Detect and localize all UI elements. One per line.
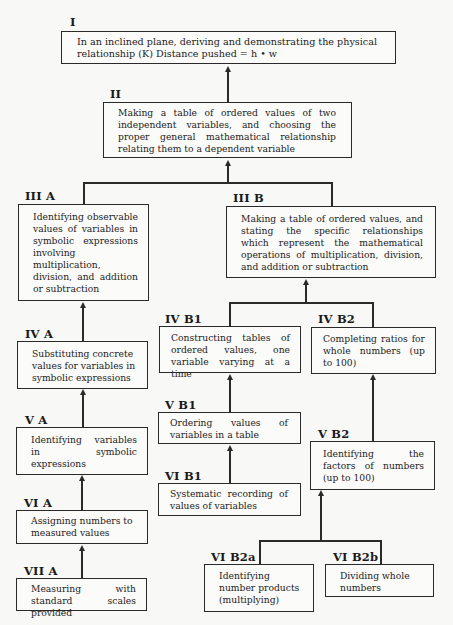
connector-VIB2a-stub bbox=[259, 540, 261, 564]
node-I-box: In an inclined plane, deriving and demon… bbox=[61, 31, 396, 64]
node-IVA-text: Substituting concrete values for variabl… bbox=[32, 348, 135, 383]
level-label-VIB2a: VI B2a bbox=[211, 551, 256, 563]
arrow-up-icon bbox=[225, 66, 231, 72]
node-VIIA-text: Measuring with standard scales provided bbox=[31, 583, 136, 618]
arrow-up-icon bbox=[227, 374, 233, 380]
arrow-up-icon bbox=[303, 279, 309, 285]
node-VA-box: Identifying variables in symbolic expres… bbox=[16, 427, 148, 475]
connector-II-I bbox=[227, 70, 229, 102]
connector-IVB-branch bbox=[229, 302, 373, 304]
node-VB1-box: Ordering values of variables in a table bbox=[158, 412, 301, 444]
connector-IIIB-stub bbox=[331, 182, 333, 206]
node-VIB1-text: Systematic recording of values of variab… bbox=[170, 488, 288, 511]
node-IIIB-text: Making a table of ordered values, and st… bbox=[241, 213, 423, 272]
connector-IVB1-stub bbox=[229, 302, 231, 326]
node-VIB2a-box: Identifying number products (multiplying… bbox=[204, 564, 314, 612]
node-VIA-text: Assigning numbers to measured values bbox=[31, 515, 133, 538]
node-IVA-box: Substituting concrete values for variabl… bbox=[17, 341, 148, 389]
node-VB2-box: Identifying the factors of numbers (up t… bbox=[310, 441, 435, 490]
node-IVB2-box: Completing ratios for whole numbers (up … bbox=[311, 327, 436, 374]
connector-IVB-IIIB bbox=[305, 283, 307, 303]
node-IVB1-text: Constructing tables of ordered values, o… bbox=[171, 332, 290, 379]
level-label-IVB1: IV B1 bbox=[165, 313, 202, 325]
node-VB2-text: Identifying the factors of numbers (up t… bbox=[323, 448, 424, 483]
arrow-up-icon bbox=[80, 389, 86, 395]
level-label-VIB2b: VI B2b bbox=[333, 551, 378, 563]
node-I-text: In an inclined plane, deriving and demon… bbox=[77, 36, 377, 59]
node-VIA-box: Assigning numbers to measured values bbox=[16, 510, 148, 544]
node-IIIA-box: Identifying observable values of variabl… bbox=[18, 204, 149, 301]
node-IVB2-text: Completing ratios for whole numbers (up … bbox=[323, 333, 425, 368]
node-VIB1-box: Systematic recording of values of variab… bbox=[158, 483, 301, 516]
arrow-up-icon bbox=[318, 490, 324, 496]
connector-VA-IVA bbox=[82, 393, 84, 427]
node-II-text: Making a table of ordered values of two … bbox=[118, 107, 336, 154]
level-label-I: I bbox=[70, 16, 76, 28]
level-label-VB2: V B2 bbox=[318, 428, 349, 440]
level-label-VA: V A bbox=[25, 414, 47, 426]
connector-III-branch bbox=[83, 182, 333, 184]
node-IVB1-box: Constructing tables of ordered values, o… bbox=[159, 326, 301, 373]
node-IIIA-text: Identifying observable values of variabl… bbox=[33, 211, 138, 294]
connector-IIIA-stub bbox=[83, 182, 85, 204]
connector-IVB2-stub bbox=[372, 302, 374, 327]
connector-VB1-IVB1 bbox=[229, 378, 231, 412]
arrow-up-icon bbox=[79, 545, 85, 551]
level-label-VIB1: VI B1 bbox=[165, 470, 202, 482]
connector-VIA-VA bbox=[81, 479, 83, 510]
node-VIIA-box: Measuring with standard scales provided bbox=[16, 578, 147, 611]
node-VA-text: Identifying variables in symbolic expres… bbox=[31, 434, 137, 469]
arrow-up-icon bbox=[370, 374, 376, 380]
node-VIB2b-text: Dividing whole numbers bbox=[340, 570, 410, 593]
arrow-up-icon bbox=[79, 475, 85, 481]
level-label-VIA: VI A bbox=[24, 497, 52, 509]
node-VB1-text: Ordering values of variables in a table bbox=[170, 417, 288, 440]
node-VIB2a-text: Identifying number products (multiplying… bbox=[219, 570, 299, 605]
connector-VB2-IVB2 bbox=[372, 378, 374, 441]
level-label-IVB2: IV B2 bbox=[318, 313, 355, 325]
level-label-VIIA: VII A bbox=[24, 565, 58, 577]
level-label-II: II bbox=[110, 88, 121, 100]
connector-III-II bbox=[227, 164, 229, 183]
level-label-IIIA: III A bbox=[25, 190, 55, 202]
level-label-VB1: V B1 bbox=[165, 399, 196, 411]
level-label-IIIB: III B bbox=[233, 192, 264, 204]
node-II-box: Making a table of ordered values of two … bbox=[103, 102, 352, 158]
arrow-up-icon bbox=[80, 302, 86, 308]
level-label-IVA: IV A bbox=[25, 328, 53, 340]
connector-IVA-IIIA bbox=[82, 306, 84, 341]
connector-VIB1-VB1 bbox=[229, 449, 231, 483]
node-VIB2b-box: Dividing whole numbers bbox=[325, 564, 434, 597]
connector-VIB2-VB2 bbox=[320, 494, 322, 541]
node-IIIB-box: Making a table of ordered values, and st… bbox=[226, 206, 436, 278]
connector-VIB2b-stub bbox=[380, 540, 382, 564]
arrow-up-icon bbox=[227, 445, 233, 451]
arrow-up-icon bbox=[225, 160, 231, 166]
connector-VIB2-branch bbox=[259, 540, 381, 542]
connector-VIIA-VIA bbox=[81, 549, 83, 578]
